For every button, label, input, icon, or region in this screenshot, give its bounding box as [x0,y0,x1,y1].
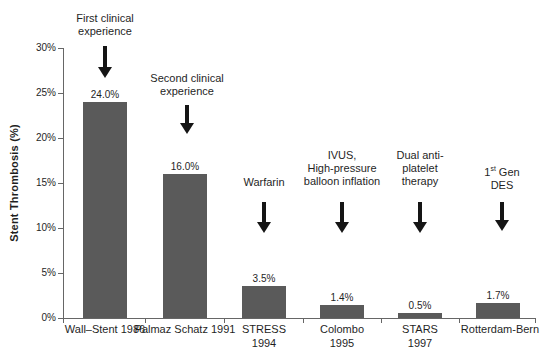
down-arrow-icon [335,202,349,233]
down-arrow-icon [180,105,194,134]
bar-value-label: 1.7% [487,290,510,301]
x-tick-mark [459,319,460,323]
annotation-line: First clinical [76,12,133,25]
x-category-label-palmaz-schatz: Palmaz Schatz 1991 [135,322,236,336]
arrow-stem [185,105,189,123]
stent-thrombosis-bar-chart: Stent Thrombosis (%) 30% 25% 20% 15% 10%… [0,0,560,362]
category-line: 1997 [402,336,438,350]
down-arrow-icon [98,46,112,78]
y-tick-label-15: 15% [16,177,56,189]
arrow-stem [418,202,422,222]
bar-value-label: 3.5% [253,273,276,284]
bar-value-label: 0.5% [409,300,432,311]
annotation-first-clinical-experience: First clinical experience [76,12,133,38]
arrow-head [335,222,349,233]
annotation-line: Warfarin [243,176,284,189]
x-category-label-rotterdam-bern: Rotterdam-Bern [461,322,539,336]
annotation-line: therapy [396,175,443,188]
annotation-text: Gen [496,166,520,178]
bar-colombo-1995 [320,305,364,318]
category-line: STARS [402,322,438,336]
category-line: 1994 [242,336,286,350]
y-tick-label-10: 10% [16,222,56,234]
y-tick-label-20: 20% [16,132,56,144]
annotation-line: Second clinical [150,72,223,85]
annotation-line: experience [76,25,133,38]
arrow-stem [340,202,344,222]
annotation-line: 1st Gen [484,162,519,179]
annotation-line: balloon inflation [304,175,380,188]
bar-group-stress-1994: 3.5% [242,273,286,318]
arrow-stem [500,202,504,220]
arrow-stem [103,46,107,67]
x-axis-line [63,318,536,319]
x-category-label-stars: STARS 1997 [402,322,438,350]
x-category-label-colombo: Colombo 1995 [320,322,364,350]
y-tick-label-30: 30% [16,42,56,54]
bar-stars-1997 [398,313,442,318]
annotation-warfarin: Warfarin [243,176,284,189]
category-line: Rotterdam-Bern [461,322,539,336]
bar-group-wall-stent-1986: 24.0% [83,89,127,318]
x-tick-mark [381,319,382,323]
annotation-line: Dual anti- [396,149,443,162]
arrow-head [98,67,112,78]
bar-wall-stent-1986 [83,102,127,318]
bar-group-stars-1997: 0.5% [398,300,442,318]
bar-value-label: 1.4% [331,292,354,303]
arrow-head [257,222,271,233]
bar-group-colombo-1995: 1.4% [320,292,364,318]
arrow-head [413,222,427,233]
annotation-ivus-high-pressure: IVUS, High-pressure balloon inflation [304,149,380,188]
y-tick-label-25: 25% [16,87,56,99]
y-axis-line [63,48,64,318]
annotation-first-gen-des: 1st Gen DES [484,162,519,192]
arrow-head [495,220,509,231]
annotation-line: IVUS, [304,149,380,162]
bar-value-label: 24.0% [91,89,119,100]
bar-rotterdam-bern [476,303,520,318]
category-line: 1995 [320,336,364,350]
annotation-dual-antiplatelet: Dual anti- platelet therapy [396,149,443,188]
x-tick-mark [63,319,64,323]
x-category-label-stress: STRESS 1994 [242,322,286,350]
x-tick-mark [303,319,304,323]
annotation-line: platelet [396,162,443,175]
bar-palmaz-schatz-1991 [163,174,207,318]
bar-group-rotterdam-bern: 1.7% [476,290,520,318]
category-line: Wall–Stent 1986 [65,322,145,336]
arrow-stem [262,202,266,222]
annotation-line: DES [484,179,519,192]
annotation-line: experience [150,85,223,98]
y-tick-label-5: 5% [16,267,56,279]
x-category-label-wall-stent: Wall–Stent 1986 [65,322,145,336]
y-tick-label-0: 0% [16,312,56,324]
down-arrow-icon [413,202,427,233]
category-line: Colombo [320,322,364,336]
category-line: STRESS [242,322,286,336]
bar-stress-1994 [242,286,286,318]
down-arrow-icon [257,202,271,233]
bar-value-label: 16.0% [171,161,199,172]
down-arrow-icon [495,202,509,231]
bar-group-palmaz-schatz-1991: 16.0% [163,161,207,318]
annotation-second-clinical-experience: Second clinical experience [150,72,223,98]
arrow-head [180,123,194,134]
annotation-line: High-pressure [304,162,380,175]
category-line: Palmaz Schatz 1991 [135,322,236,336]
